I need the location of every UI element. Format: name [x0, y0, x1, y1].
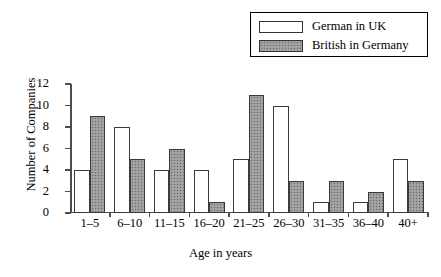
y-axis-tick-label: 4: [27, 163, 49, 175]
y-axis-tick-label: 10: [27, 99, 49, 111]
legend-label-german-in-uk: German in UK: [312, 20, 386, 33]
bar-british-in-germany: [249, 95, 265, 213]
bar-group: [70, 84, 110, 213]
y-axis-tick-label: 0: [27, 206, 49, 218]
filled-square-swatch: [259, 40, 303, 52]
plot-area: 0246810121–56–1011–1516–2021–2526–3031–3…: [70, 84, 428, 213]
x-axis-tick-label: 40+: [384, 217, 432, 230]
bar-german-in-uk: [273, 106, 289, 214]
bar-british-in-germany: [408, 181, 424, 213]
y-axis-tick-label: 2: [27, 185, 49, 197]
y-axis-tick-label: 8: [27, 120, 49, 132]
bar-group: [189, 84, 229, 213]
bar-german-in-uk: [233, 159, 249, 213]
x-axis-title: Age in years: [0, 246, 441, 261]
chart-legend: German in UK British in Germany: [250, 12, 428, 57]
bar-group: [150, 84, 190, 213]
y-axis-tick-label: 12: [27, 77, 49, 89]
bar-british-in-germany: [130, 159, 146, 213]
bar-british-in-germany: [368, 192, 384, 214]
bar-british-in-germany: [289, 181, 305, 213]
bar-group-bars: [388, 84, 428, 213]
bar-group: [388, 84, 428, 213]
bar-group-bars: [309, 84, 349, 213]
bar-group: [110, 84, 150, 213]
y-axis-tick-label: 6: [27, 142, 49, 154]
bar-german-in-uk: [154, 170, 170, 213]
bar-group: [348, 84, 388, 213]
bar-german-in-uk: [114, 127, 130, 213]
bar-group: [229, 84, 269, 213]
bar-german-in-uk: [393, 159, 409, 213]
bar-british-in-germany: [169, 149, 185, 214]
legend-item-german-in-uk: German in UK: [259, 18, 427, 35]
bar-british-in-germany: [329, 181, 345, 213]
bar-group-bars: [150, 84, 190, 213]
bar-group: [269, 84, 309, 213]
open-square-swatch: [259, 21, 303, 33]
bar-chart-figure: German in UK British in Germany Number o…: [0, 0, 441, 277]
legend-item-british-in-germany: British in Germany: [259, 37, 427, 54]
bar-group: [309, 84, 349, 213]
bar-german-in-uk: [74, 170, 90, 213]
bar-group-bars: [269, 84, 309, 213]
bar-german-in-uk: [353, 202, 369, 213]
bar-group-bars: [229, 84, 269, 213]
legend-label-british-in-germany: British in Germany: [312, 39, 409, 52]
bar-group-bars: [348, 84, 388, 213]
bar-british-in-germany: [90, 116, 106, 213]
bar-german-in-uk: [313, 202, 329, 213]
bar-group-bars: [70, 84, 110, 213]
bar-british-in-germany: [209, 202, 225, 213]
bar-group-bars: [110, 84, 150, 213]
bar-german-in-uk: [194, 170, 210, 213]
bar-group-bars: [189, 84, 229, 213]
